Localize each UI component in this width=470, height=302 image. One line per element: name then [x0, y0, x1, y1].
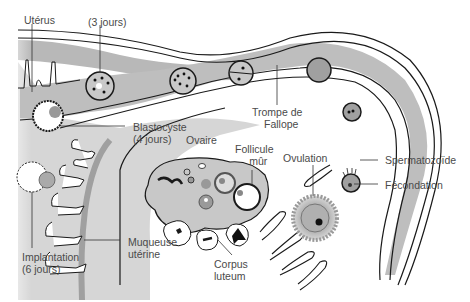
label-implantation-line2: (6 jours) [22, 263, 79, 275]
stage-4cell [229, 61, 253, 85]
stage-8cell [170, 68, 196, 94]
label-day3: (3 jours) [88, 16, 127, 28]
label-fallopian-tube: Trompe de Fallope [252, 106, 302, 130]
label-blastocyst-line2: (4 jours) [133, 133, 187, 145]
ovulated-ovum [293, 196, 337, 240]
label-corpus-line1: Corpus [214, 258, 248, 270]
label-mucosa-line2: utérine [128, 248, 177, 260]
fertilization-cell [342, 168, 360, 192]
label-blastocyst: Blastocyste (4 jours) [133, 121, 187, 145]
label-tube-line1: Trompe de [252, 106, 302, 118]
stage-morula [86, 72, 114, 100]
label-corpus-line2: luteum [214, 270, 248, 282]
label-follicle: Follicule mûr [235, 143, 274, 167]
label-implantation: Implantation (6 jours) [22, 251, 79, 275]
label-corpus-luteum: Corpus luteum [214, 258, 248, 282]
label-fertilization: Fécondation [385, 179, 443, 191]
label-blastocyst-line1: Blastocyste [133, 121, 187, 133]
stage-blastocyst [33, 101, 63, 131]
label-ovary: Ovaire [186, 134, 217, 146]
label-tube-line2: Fallope [252, 118, 302, 130]
label-mucosa: Muqueuse utérine [128, 236, 177, 260]
stage-zygote [343, 103, 361, 121]
label-follicle-line2: mûr [235, 155, 274, 167]
label-mucosa-line1: Muqueuse [128, 236, 177, 248]
fertilization-diagram: Utérus (3 jours) Trompe de Fallope Blast… [0, 0, 470, 302]
label-uterus: Utérus [24, 14, 55, 26]
label-follicle-line1: Follicule [235, 143, 274, 155]
label-ovulation: Ovulation [283, 152, 327, 164]
label-sperm: Spermatozoïde [385, 154, 456, 166]
stage-2cell [307, 58, 331, 82]
label-implantation-line1: Implantation [22, 251, 79, 263]
